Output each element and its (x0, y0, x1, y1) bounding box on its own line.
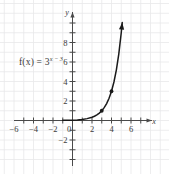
y-tick-label: −2 (58, 135, 67, 145)
x-axis-tick-labels: −6−4−20246 (9, 124, 133, 134)
y-tick-label: 6 (63, 57, 67, 67)
x-tick-label: 0 (67, 124, 71, 134)
marked-point (110, 89, 114, 93)
x-axis-label: x (151, 117, 156, 126)
x-tick-label: 6 (129, 124, 133, 134)
x-tick-label: −2 (48, 124, 57, 134)
background-grid (0, 0, 169, 174)
marked-point (100, 109, 104, 113)
coordinate-plane: −6−4−20246 −22468 x y (0, 0, 169, 174)
exponential-function-graph-figure: −6−4−20246 −22468 x y f(x) = 3x − 3 (0, 0, 169, 174)
x-tick-label: −4 (29, 124, 39, 134)
function-equation-label: f(x) = 3x − 3 (19, 55, 63, 67)
y-axis-label: y (64, 8, 69, 17)
y-tick-label: 2 (63, 96, 67, 106)
y-tick-label: 8 (63, 38, 67, 48)
x-tick-label: 2 (90, 124, 94, 134)
function-equation-text: f(x) = 3 (19, 57, 50, 67)
x-tick-label: −6 (9, 124, 18, 134)
y-axis-arrow-icon (70, 12, 74, 18)
x-axis-arrow-icon (147, 118, 153, 122)
x-tick-label: 4 (109, 124, 114, 134)
function-exponent-text: x − 3 (50, 55, 63, 62)
